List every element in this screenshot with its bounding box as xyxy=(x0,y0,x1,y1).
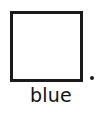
color-swatch-square xyxy=(10,11,83,82)
figure-root: blue xyxy=(0,0,102,115)
swatch-fill-area xyxy=(13,14,80,79)
period-punctuation-icon xyxy=(90,76,94,80)
swatch-caption-label: blue xyxy=(0,85,102,106)
